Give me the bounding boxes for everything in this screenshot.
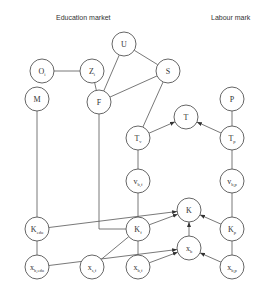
node-vbf: vb,f [126,169,150,193]
edge-xbedu-xb [49,249,177,265]
node-xbp: xb,p [220,255,244,279]
node-Z: Zi [80,59,104,83]
node-S: S [156,59,180,83]
edge-U-F [104,55,120,91]
node-P: P [220,87,244,111]
node-Tp: Tp [220,126,244,150]
node-label: U [121,40,127,49]
edge-Kf-K [149,214,178,225]
node-Kedu: Kedu [25,217,49,241]
edge-S-F [110,76,157,97]
node-K: K [177,198,201,222]
node-vbp: vb,p [220,169,244,193]
node-label: M [33,95,40,104]
node-xb: xb [177,236,201,260]
node-Tv: Tv [126,126,150,150]
edge-U-S [134,50,158,64]
nodes-layer: OiZiUSMFPTTvTpvb,fvb,pKKeduKfKpxbxb,edux… [25,32,244,279]
node-M: M [25,87,49,111]
node-T: T [174,105,198,129]
edge-xbf-xb [149,252,178,263]
edge-Kedu-K [49,211,177,227]
node-Kf: Kf [126,217,150,241]
node-label: S [166,67,170,76]
edge-Tp-T [197,122,221,133]
node-O: Oi [30,59,54,83]
node-label: P [230,95,235,104]
node-U: U [112,32,136,56]
node-F: F [87,90,111,114]
node-xsf: xs,f [80,255,104,279]
edge-S-Tv [143,82,163,127]
node-label: K [186,206,192,215]
edge-Z-F [95,83,97,91]
causal-diagram: OiZiUSMFPTTvTpvb,fvb,pKKeduKfKpxbxb,edux… [0,0,259,302]
node-label: F [97,98,102,107]
node-label: T [184,113,189,122]
edge-F-Kf [99,114,126,229]
edge-Kp-K [200,215,221,224]
node-Kp: Kp [220,217,244,241]
edge-xbp-xb [200,253,221,262]
edge-Tv-T [149,122,175,133]
node-xbedu: xb,edu [25,255,49,279]
node-xbf: xb,f [126,255,150,279]
